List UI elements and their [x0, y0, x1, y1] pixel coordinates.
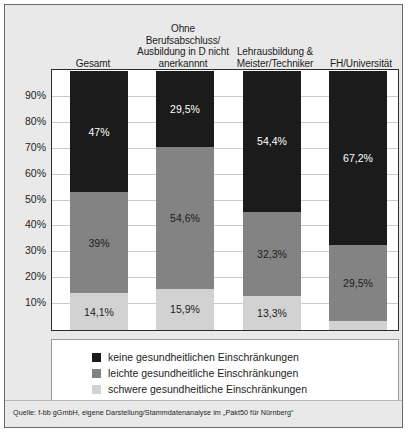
category-header-line: FH/Universität [321, 58, 401, 70]
bar-segment[interactable]: 29,5% [329, 245, 387, 321]
legend-item[interactable]: schwere gesundheitliche Einschränkungen [92, 382, 307, 396]
bar-segment[interactable]: 54,6% [156, 147, 214, 288]
category-header-line: Lehrausbildung & [229, 46, 321, 58]
bar-segment[interactable] [329, 321, 387, 330]
legend-swatch-icon [92, 369, 101, 378]
y-axis-tick-label: 50% [25, 193, 46, 205]
category-header-line: Gesamt [49, 58, 137, 70]
legend-item[interactable]: leichte gesundheitliche Einschränkungen [92, 366, 298, 380]
bar-segment[interactable]: 39% [70, 192, 128, 293]
legend-label: leichte gesundheitliche Einschränkungen [108, 367, 298, 379]
category-header-fh-universitaet: FH/Universität [321, 58, 401, 70]
bar-segment[interactable]: 15,9% [156, 289, 214, 330]
y-axis-tick-label: 90% [25, 89, 46, 101]
bar-segment[interactable]: 13,3% [243, 296, 301, 330]
category-header-line: anerkannnt [135, 58, 231, 70]
legend-label: schwere gesundheitliche Einschränkungen [108, 383, 307, 395]
legend-swatch-icon [92, 353, 101, 362]
bar-segment[interactable]: 32,3% [243, 212, 301, 296]
bar-column[interactable]: 14,1%39%47% [70, 70, 128, 330]
chart-legend: keine gesundheitlichen Einschränkungenle… [51, 339, 399, 401]
bar-segment[interactable]: 47% [70, 71, 128, 193]
legend-item[interactable]: keine gesundheitlichen Einschränkungen [92, 350, 299, 364]
y-axis-tick-label: 40% [25, 218, 46, 230]
category-header-ohne-berufsabschluss: Ohne Berufsabschluss/Ausbildung in D nic… [135, 23, 231, 69]
y-axis-tick-label: 60% [25, 167, 46, 179]
chart-figure: Gesamt Ohne Berufsabschluss/Ausbildung i… [4, 4, 403, 428]
plot-area: 14,1%39%47%15,9%54,6%29,5%13,3%32,3%54,4… [51, 69, 399, 331]
bar-column[interactable]: 29,5%67,2% [329, 70, 387, 330]
category-header-gesamt: Gesamt [49, 58, 137, 70]
y-axis-tick-label: 70% [25, 141, 46, 153]
y-axis-tick-label: 10% [25, 296, 46, 308]
source-bar: Quelle: f-bb gGmbH, eigene Darstellung/S… [5, 400, 402, 427]
y-axis-tick-label: 30% [25, 244, 46, 256]
category-header-lehrausbildung: Lehrausbildung &Meister/Techniker [229, 46, 321, 69]
category-header-line: Meister/Techniker [229, 58, 321, 70]
category-header-line: Ohne Berufsabschluss/ [135, 23, 231, 46]
bar-column[interactable]: 15,9%54,6%29,5% [156, 70, 214, 330]
y-axis-tick-label: 80% [25, 115, 46, 127]
y-axis: 90%80%70%60%50%40%30%20%10% [9, 69, 49, 331]
bar-column[interactable]: 13,3%32,3%54,4% [243, 70, 301, 330]
plot-canvas: 14,1%39%47%15,9%54,6%29,5%13,3%32,3%54,4… [52, 70, 398, 330]
source-note: Quelle: f-bb gGmbH, eigene Darstellung/S… [13, 408, 294, 417]
bar-segment[interactable]: 29,5% [156, 71, 214, 147]
legend-swatch-icon [92, 385, 101, 394]
category-header-row: Gesamt Ohne Berufsabschluss/Ausbildung i… [49, 13, 401, 69]
bar-segment[interactable]: 14,1% [70, 293, 128, 330]
y-axis-tick-label: 20% [25, 270, 46, 282]
legend-label: keine gesundheitlichen Einschränkungen [108, 351, 299, 363]
category-header-line: Ausbildung in D nicht [135, 46, 231, 58]
bar-segment[interactable]: 54,4% [243, 71, 301, 212]
bar-segment[interactable]: 67,2% [329, 71, 387, 245]
